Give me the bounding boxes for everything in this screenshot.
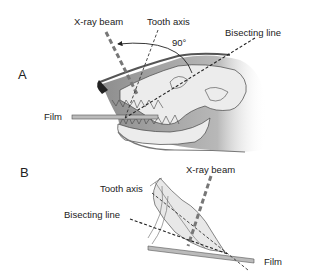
angle-label: 90° xyxy=(172,38,186,48)
bisecting-line-label-a: Bisecting line xyxy=(225,28,281,38)
tooth-axis-label-a: Tooth axis xyxy=(147,17,190,27)
film-plate-b xyxy=(148,246,254,263)
film-plate-a xyxy=(72,115,158,119)
xray-beam-label-b: X-ray beam xyxy=(186,165,235,175)
diagram-canvas xyxy=(0,0,311,277)
panel-b-letter: B xyxy=(20,166,29,179)
xray-beam-label-a: X-ray beam xyxy=(74,17,123,27)
film-label-a: Film xyxy=(44,112,62,122)
bisecting-line-label-b: Bisecting line xyxy=(64,210,120,220)
tooth-cross-section xyxy=(148,178,225,252)
panel-a-letter: A xyxy=(18,68,27,81)
film-label-b: Film xyxy=(264,257,282,267)
tooth-axis-label-b: Tooth axis xyxy=(100,184,143,194)
